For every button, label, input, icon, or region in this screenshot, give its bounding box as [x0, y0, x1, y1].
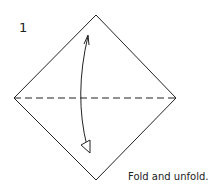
- fold-unfold-arrow-icon: [81, 35, 90, 153]
- origami-diagram: [0, 0, 221, 192]
- instruction-caption: Fold and unfold.: [128, 171, 208, 182]
